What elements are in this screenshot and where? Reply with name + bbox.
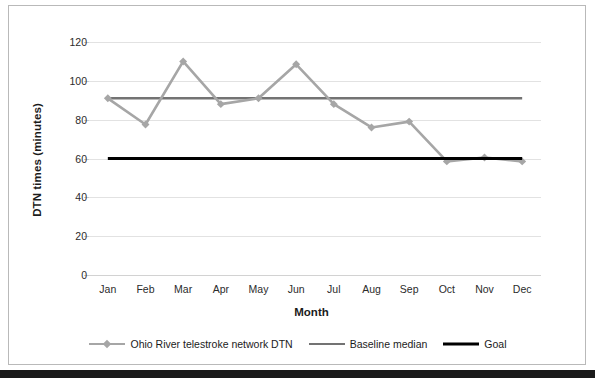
y-tick-label: 120 bbox=[41, 36, 87, 48]
legend-item[interactable]: Baseline median bbox=[309, 338, 428, 350]
legend-line bbox=[443, 343, 479, 346]
legend-label: Goal bbox=[484, 338, 506, 350]
chart-legend: Ohio River telestroke network DTNBaselin… bbox=[9, 338, 587, 350]
legend-label: Baseline median bbox=[350, 338, 428, 350]
x-axis-title: Month bbox=[89, 306, 534, 318]
plot-area: 020406080100120 JanFebMarAprMayJunJulAug… bbox=[89, 42, 541, 275]
bottom-bar bbox=[0, 370, 595, 378]
legend-item[interactable]: Ohio River telestroke network DTN bbox=[89, 338, 292, 350]
legend-swatch bbox=[309, 339, 345, 349]
y-tick-label: 40 bbox=[41, 191, 87, 203]
y-tick-label: 20 bbox=[41, 230, 87, 242]
gridline bbox=[89, 275, 541, 276]
x-tick-label: Dec bbox=[499, 283, 545, 295]
legend-label: Ohio River telestroke network DTN bbox=[130, 338, 292, 350]
legend-item[interactable]: Goal bbox=[443, 338, 506, 350]
line-chart: DTN times (minutes) Month 02040608010012… bbox=[9, 6, 587, 366]
y-tick-label: 80 bbox=[41, 114, 87, 126]
legend-swatch bbox=[89, 339, 125, 349]
legend-swatch bbox=[443, 339, 479, 349]
y-tick-label: 60 bbox=[41, 153, 87, 165]
figure-frame: DTN times (minutes) Month 02040608010012… bbox=[8, 5, 586, 365]
series-line bbox=[108, 61, 522, 161]
legend-marker-icon bbox=[103, 340, 111, 348]
legend-line bbox=[309, 343, 345, 345]
series-lines bbox=[89, 42, 541, 275]
y-tick-label: 0 bbox=[41, 269, 87, 281]
y-tick-label: 100 bbox=[41, 75, 87, 87]
